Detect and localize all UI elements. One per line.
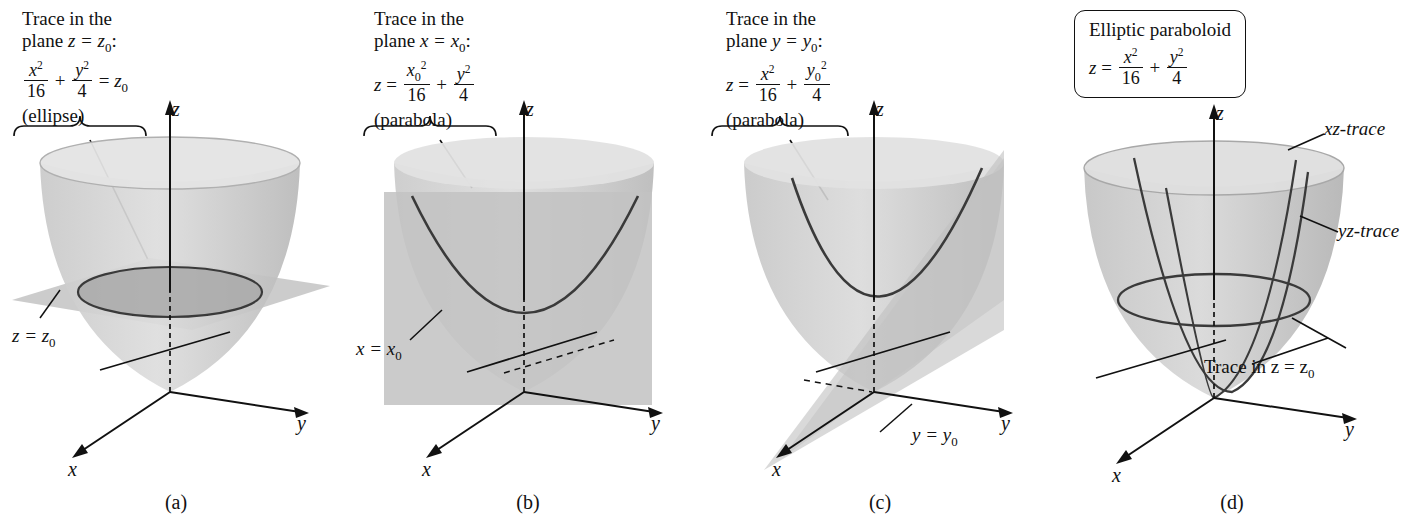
leader-line-plane <box>880 404 912 432</box>
x-axis-label: x <box>422 458 431 481</box>
brace-ellipse <box>14 116 146 136</box>
panel-a-caption: (a) <box>0 491 352 514</box>
y-axis <box>1214 398 1348 418</box>
y-axis-label: y <box>1345 418 1354 441</box>
panel-a: Trace in the plane z = z0: x2 16 + y2 4 … <box>0 0 352 530</box>
x-axis-label: x <box>1112 464 1121 487</box>
panel-c-caption: (c) <box>704 491 1056 514</box>
leader-xz <box>1288 134 1324 150</box>
brace-parabola <box>712 116 848 136</box>
z-axis-label: z <box>172 98 180 121</box>
ellipse-trace-label: Trace in z = z0 <box>1204 356 1314 382</box>
x-axis <box>1124 398 1214 458</box>
y-axis <box>874 392 1004 412</box>
x-axis-arrow <box>426 444 442 458</box>
z-axis-label: z <box>526 98 534 121</box>
plane-label-b: x = x0 <box>356 338 402 364</box>
panel-b: Trace in the plane x = x0: z = x02 16 + … <box>352 0 704 530</box>
y-axis-label: y <box>651 412 660 435</box>
y-axis <box>170 392 300 412</box>
panel-d-graphic <box>1056 0 1408 530</box>
brace-parabola <box>364 116 496 136</box>
panel-c-graphic <box>704 0 1056 530</box>
z-axis-label: z <box>1216 102 1224 125</box>
panel-d: Elliptic paraboloid z = x2 16 + y2 4 <box>1056 0 1408 530</box>
x-axis-arrow <box>72 444 88 458</box>
yz-trace-label: yz-trace <box>1338 220 1399 242</box>
leader-ellipse-1 <box>1292 318 1346 348</box>
y-axis-label: y <box>1001 412 1010 435</box>
panel-a-graphic <box>0 0 352 530</box>
x-axis-label: x <box>772 458 781 481</box>
x-axis <box>80 392 170 452</box>
x-axis-label: x <box>68 458 77 481</box>
plane-label-a: z = z0 <box>12 325 56 351</box>
panel-b-caption: (b) <box>352 491 704 514</box>
xz-trace-label: xz-trace <box>1324 118 1385 140</box>
y-axis-label: y <box>297 412 306 435</box>
panel-b-graphic <box>352 0 704 530</box>
plane-x <box>384 192 652 405</box>
x-axis-arrow <box>1116 450 1132 464</box>
plane-label-c: y = y0 <box>912 424 958 450</box>
z-axis-label: z <box>876 98 884 121</box>
panel-c: Trace in the plane y = y0: z = x2 16 + y… <box>704 0 1056 530</box>
panel-d-caption: (d) <box>1056 491 1408 514</box>
